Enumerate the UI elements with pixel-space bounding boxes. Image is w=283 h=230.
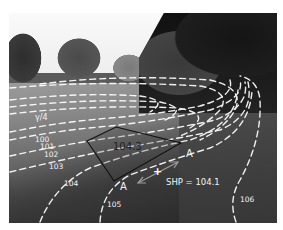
contour-line-inner-1 [10,95,158,112]
small-mark: γ/4 [35,114,48,122]
point-marker-icon: + [153,166,162,177]
contour-label-106: 106 [240,196,254,204]
section-label-a-right: A [186,149,193,159]
contour-label-104: 104 [64,180,78,188]
contour-label-105: 105 [107,201,121,209]
shp-label: SHP = 104.1 [166,178,220,187]
area-label: 104.3 [113,142,142,152]
section-label-a-left: A [120,182,127,192]
contour-label-102: 102 [44,151,58,159]
contour-label-103: 103 [49,163,63,171]
